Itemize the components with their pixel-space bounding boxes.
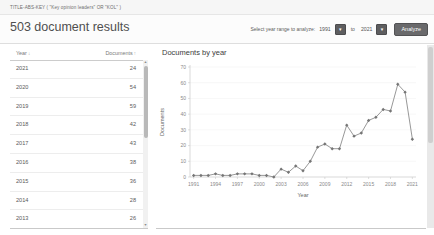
data-point-marker [389,109,392,112]
scroll-down-icon[interactable]: ▼ [143,223,148,228]
year-cell: 2021 [16,65,28,71]
year-column-header[interactable]: Year↓ [16,50,30,56]
table-row: 202054 [10,79,143,98]
data-point-marker [265,174,268,177]
svg-text:2021: 2021 [407,181,418,187]
svg-text:2015: 2015 [363,181,374,187]
y-axis-label: Documents [159,108,165,136]
to-year-value[interactable]: 2021 [361,26,373,32]
svg-text:2009: 2009 [319,181,330,187]
svg-text:70: 70 [180,64,186,70]
table-row: 202124 [10,60,143,79]
analyze-button[interactable]: Analyze [394,23,428,36]
table-row: 201842 [10,116,143,135]
svg-text:2006: 2006 [297,181,308,187]
data-point-marker [411,138,414,141]
to-year-dropdown-button[interactable]: ▾ [376,24,387,35]
from-year-dropdown-button[interactable]: ▾ [335,24,346,35]
year-cell: 2018 [16,121,28,127]
data-point-marker [338,147,341,150]
chart-panel: Documents by year 0102030405060701991199… [156,45,426,229]
to-label: to [351,26,355,32]
table-row: 201743 [10,135,143,154]
documents-by-year-table: Year↓ Documents↑ 20212420205420195920184… [10,46,148,229]
svg-text:1997: 1997 [232,181,243,187]
documents-cell: 42 [130,121,136,127]
documents-cell: 43 [130,140,136,146]
documents-cell: 59 [130,103,136,109]
svg-text:2003: 2003 [276,181,287,187]
year-cell: 2017 [16,140,28,146]
table-row: 201428 [10,192,143,211]
year-cell: 2019 [16,103,28,109]
table-row: 201536 [10,173,143,192]
table-row: 201326 [10,210,143,228]
page-scrollbar-thumb[interactable] [428,47,433,143]
scroll-up-icon[interactable]: ▲ [143,60,148,65]
year-cell: 2016 [16,159,28,165]
svg-text:30: 30 [180,127,186,133]
data-point-marker [199,174,202,177]
sort-descending-icon: ↓ [28,51,30,56]
data-point-marker [214,172,217,175]
data-point-marker [236,172,239,175]
page-scrollbar[interactable] [427,45,434,228]
table-row: 201638 [10,154,143,173]
year-cell: 2020 [16,84,28,90]
svg-text:2018: 2018 [385,181,396,187]
svg-text:2012: 2012 [341,181,352,187]
chevron-down-icon: ▾ [339,26,342,32]
table-scrollbar[interactable]: ▲ ▼ [143,60,148,228]
svg-text:2000: 2000 [254,181,265,187]
results-count: 503 document results [10,20,130,34]
data-point-marker [316,145,319,148]
documents-by-year-chart: 0102030405060701991199419972000200320062… [156,61,426,211]
svg-text:40: 40 [180,111,186,117]
svg-text:1994: 1994 [210,181,221,187]
year-range-controls: Select year range to analyze: 1991 ▾ to … [250,22,428,36]
data-point-marker [207,174,210,177]
documents-cell: 24 [130,65,136,71]
data-point-marker [258,174,261,177]
table-header-row: Year↓ Documents↑ [10,46,148,61]
svg-text:60: 60 [180,80,186,86]
svg-text:10: 10 [180,158,186,164]
chevron-down-icon: ▾ [381,26,384,32]
documents-cell: 38 [130,159,136,165]
documents-cell: 54 [130,84,136,90]
data-point-marker [250,172,253,175]
from-year-value[interactable]: 1991 [319,26,331,32]
data-point-marker [360,131,363,134]
data-point-marker [221,174,224,177]
svg-text:0: 0 [183,174,186,180]
query-bar: TITLE-ABS-KEY ( "Key opinion leaders" OR… [0,0,434,15]
table-scrollbar-thumb[interactable] [144,66,148,138]
documents-cell: 36 [130,178,136,184]
analyze-results-page: TITLE-ABS-KEY ( "Key opinion leaders" OR… [0,0,434,235]
chart-title: Documents by year [162,48,227,57]
documents-cell: 28 [130,197,136,203]
data-point-marker [228,174,231,177]
documents-cell: 26 [130,215,136,221]
year-cell: 2014 [16,197,28,203]
svg-text:1991: 1991 [188,181,199,187]
sort-ascending-icon: ↑ [134,51,136,56]
svg-text:50: 50 [180,95,186,101]
year-range-label: Select year range to analyze: [250,26,315,32]
year-cell: 2015 [16,178,28,184]
table-row: 201959 [10,98,143,117]
documents-column-header[interactable]: Documents↑ [105,50,136,56]
search-query-text[interactable]: TITLE-ABS-KEY ( "Key opinion leaders" OR… [10,5,121,10]
data-point-marker [243,172,246,175]
year-cell: 2013 [16,215,28,221]
table-body: 2021242020542019592018422017432016382015… [10,60,143,228]
page-header: 503 document results Select year range t… [0,15,434,44]
data-point-marker [192,174,195,177]
svg-text:20: 20 [180,142,186,148]
x-axis-label: Year [297,192,308,198]
